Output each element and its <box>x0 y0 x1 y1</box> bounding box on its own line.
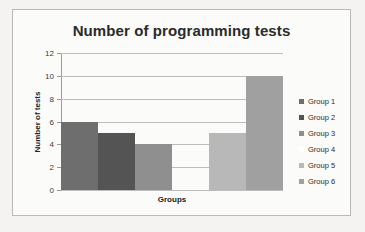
legend-item-label: Group 3 <box>308 129 335 138</box>
legend-item-label: Group 6 <box>308 177 335 186</box>
legend-swatch-icon <box>299 115 304 120</box>
x-axis-title: Groups <box>61 195 283 204</box>
y-axis-title: Number of tests <box>33 92 42 153</box>
y-axis-tick-label: 6 <box>50 117 54 126</box>
legend-swatch-icon <box>299 147 304 152</box>
bar[interactable] <box>135 144 172 190</box>
y-axis-tick-label: 10 <box>45 71 54 80</box>
chart-legend: Group 1Group 2Group 3Group 4Group 5Group… <box>299 93 365 189</box>
legend-swatch-icon <box>299 99 304 104</box>
y-axis-tick-label: 8 <box>50 94 54 103</box>
legend-item[interactable]: Group 1 <box>299 93 365 109</box>
bar[interactable] <box>209 133 246 190</box>
legend-item[interactable]: Group 6 <box>299 173 365 189</box>
legend-item-label: Group 4 <box>308 145 335 154</box>
legend-swatch-icon <box>299 179 304 184</box>
y-axis-tick-label: 2 <box>50 163 54 172</box>
bar[interactable] <box>61 122 98 191</box>
y-axis-tick-label: 4 <box>50 140 54 149</box>
bar[interactable] <box>98 133 135 190</box>
legend-swatch-icon <box>299 163 304 168</box>
gridline <box>61 190 283 191</box>
y-axis-tick-mark <box>57 190 61 191</box>
legend-item[interactable]: Group 2 <box>299 109 365 125</box>
chart-title: Number of programming tests <box>13 22 350 39</box>
legend-item[interactable]: Group 5 <box>299 157 365 173</box>
bar[interactable] <box>246 76 283 190</box>
chart-container: Number of programming tests Number of te… <box>12 9 351 216</box>
plot-area: 024681012 <box>61 53 283 190</box>
legend-item-label: Group 2 <box>308 113 335 122</box>
legend-item[interactable]: Group 4 <box>299 141 365 157</box>
y-axis-tick-label: 0 <box>50 186 54 195</box>
y-axis-tick-label: 12 <box>45 49 54 58</box>
bars-container <box>61 53 283 190</box>
legend-item-label: Group 1 <box>308 97 335 106</box>
legend-item-label: Group 5 <box>308 161 335 170</box>
legend-swatch-icon <box>299 131 304 136</box>
legend-item[interactable]: Group 3 <box>299 125 365 141</box>
